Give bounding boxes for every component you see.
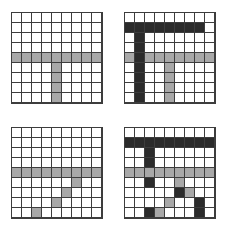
heatmap-cell	[185, 13, 195, 23]
heatmap-cell	[205, 128, 215, 138]
figure-panel-grid	[0, 0, 227, 230]
heatmap-cell	[42, 178, 52, 188]
heatmap-cell	[62, 73, 72, 83]
heatmap-cell	[32, 128, 42, 138]
heatmap-cell	[155, 168, 165, 178]
heatmap-cell	[135, 208, 145, 218]
heatmap-cell	[135, 148, 145, 158]
heatmap-cell	[185, 43, 195, 53]
heatmap-cell	[32, 168, 42, 178]
heatmap-cell	[175, 83, 185, 93]
heatmap-cell	[185, 63, 195, 73]
heatmap-cell	[145, 168, 155, 178]
heatmap-cell	[155, 53, 165, 63]
heatmap-cell	[125, 83, 135, 93]
heatmap-cell	[72, 43, 82, 53]
heatmap-cell	[195, 188, 205, 198]
heatmap-cell	[205, 33, 215, 43]
heatmap-cell	[92, 73, 102, 83]
heatmap-cell	[62, 188, 72, 198]
heatmap-cell	[145, 63, 155, 73]
heatmap-cell	[155, 83, 165, 93]
heatmap-cell	[82, 23, 92, 33]
heatmap-cell	[165, 188, 175, 198]
heatmap-cell	[42, 13, 52, 23]
heatmap-cell	[135, 168, 145, 178]
heatmap-cell	[175, 13, 185, 23]
heatmap-cell	[205, 13, 215, 23]
heatmap-cell	[62, 13, 72, 23]
heatmap-cell	[195, 13, 205, 23]
heatmap-cell	[52, 158, 62, 168]
heatmap-cell	[72, 208, 82, 218]
heatmap-cell	[135, 178, 145, 188]
heatmap-cell	[52, 178, 62, 188]
heatmap-cell	[195, 23, 205, 33]
heatmap-cell	[62, 208, 72, 218]
heatmap-cell	[82, 83, 92, 93]
heatmap-cell	[185, 138, 195, 148]
heatmap-cell	[205, 208, 215, 218]
heatmap-grid-top-left	[11, 12, 103, 104]
heatmap-cell	[12, 158, 22, 168]
heatmap-cell	[72, 158, 82, 168]
heatmap-cell	[185, 23, 195, 33]
heatmap-cell	[185, 158, 195, 168]
heatmap-cell	[205, 168, 215, 178]
heatmap-cell	[135, 43, 145, 53]
heatmap-cell	[52, 23, 62, 33]
heatmap-cell	[82, 198, 92, 208]
heatmap-cell	[72, 198, 82, 208]
heatmap-cell	[12, 168, 22, 178]
heatmap-cell	[175, 63, 185, 73]
heatmap-cell	[92, 53, 102, 63]
heatmap-cell	[82, 188, 92, 198]
heatmap-cell	[62, 63, 72, 73]
heatmap-cell	[12, 208, 22, 218]
heatmap-cell	[42, 43, 52, 53]
heatmap-cell	[145, 208, 155, 218]
heatmap-cell	[12, 33, 22, 43]
heatmap-cell	[135, 198, 145, 208]
heatmap-grid-bottom-left	[11, 127, 103, 219]
heatmap-cell	[12, 63, 22, 73]
heatmap-cell	[72, 23, 82, 33]
heatmap-cell	[125, 188, 135, 198]
heatmap-cell	[32, 53, 42, 63]
heatmap-cell	[125, 208, 135, 218]
heatmap-cell	[12, 128, 22, 138]
heatmap-cell	[155, 148, 165, 158]
heatmap-cell	[42, 158, 52, 168]
heatmap-cell	[62, 198, 72, 208]
heatmap-cell	[72, 33, 82, 43]
heatmap-cell	[175, 148, 185, 158]
heatmap-cell	[155, 13, 165, 23]
heatmap-cell	[165, 13, 175, 23]
heatmap-cell	[62, 178, 72, 188]
heatmap-cell	[32, 23, 42, 33]
heatmap-cell	[125, 178, 135, 188]
heatmap-cell	[62, 83, 72, 93]
heatmap-cell	[72, 93, 82, 103]
heatmap-cell	[195, 83, 205, 93]
heatmap-cell	[165, 178, 175, 188]
heatmap-cell	[205, 93, 215, 103]
heatmap-cell	[205, 83, 215, 93]
heatmap-cell	[185, 83, 195, 93]
heatmap-cell	[32, 13, 42, 23]
heatmap-cell	[42, 83, 52, 93]
heatmap-cell	[72, 73, 82, 83]
heatmap-cell	[52, 43, 62, 53]
heatmap-cell	[145, 73, 155, 83]
heatmap-cell	[32, 148, 42, 158]
heatmap-cell	[62, 138, 72, 148]
heatmap-cell	[205, 23, 215, 33]
heatmap-cell	[82, 73, 92, 83]
heatmap-cell	[62, 168, 72, 178]
heatmap-cell	[12, 73, 22, 83]
heatmap-cell	[165, 23, 175, 33]
heatmap-cell	[92, 63, 102, 73]
heatmap-cell	[175, 53, 185, 63]
heatmap-cell	[125, 43, 135, 53]
heatmap-cell	[72, 148, 82, 158]
